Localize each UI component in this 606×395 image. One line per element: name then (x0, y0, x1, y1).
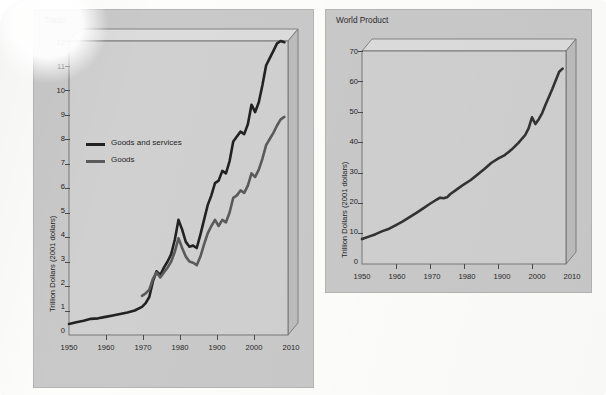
series-line (362, 69, 563, 239)
trade-series-plot (34, 10, 313, 387)
world-product-series-plot (326, 10, 591, 292)
panel-trade: Trade Trillion Dollars (2001 dollars) 12… (33, 9, 314, 388)
panel-world-product: World Product Trillion Dollars (2001 dol… (325, 9, 592, 293)
figure-page: Projections of global trade trends from … (0, 0, 606, 395)
series-line (69, 41, 284, 324)
